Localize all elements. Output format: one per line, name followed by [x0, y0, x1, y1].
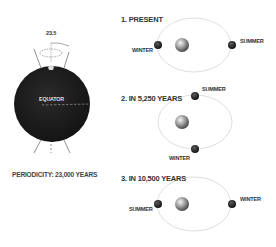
panel-2-winter-label: WINTER	[169, 155, 190, 161]
orbit-panel-3	[154, 177, 236, 231]
panel-2-summer-label: SUMMER	[202, 86, 226, 92]
panel-1-summer-label: SUMMER	[240, 38, 264, 44]
panel-1-winter-label: WINTER	[132, 47, 153, 53]
panel-3-winter-label: WINTER	[240, 196, 261, 202]
tilt-angle-label: 23.5	[46, 30, 56, 36]
panel-2-title: 2. IN 5,250 YEARS	[121, 94, 182, 103]
periodicity-label: PERIODICITY: 23,000 YEARS	[12, 171, 97, 178]
rotation-arrow-icon	[40, 43, 69, 62]
orbit-panel-1	[154, 18, 236, 72]
panel-3-summer-label: SUMMER	[129, 206, 153, 212]
equator-label: EQUATOR	[39, 96, 64, 102]
panel-1-title: 1. PRESENT	[121, 15, 163, 24]
panel-3-title: 3. IN 10,500 YEARS	[121, 174, 186, 183]
